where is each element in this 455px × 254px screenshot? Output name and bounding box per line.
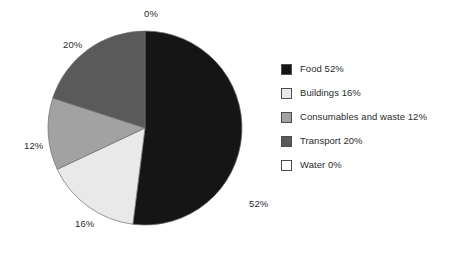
pie-chart: 0%20%12%16%52% Food 52%Buildings 16%Cons… bbox=[0, 0, 455, 254]
pie-slice-food bbox=[133, 31, 242, 225]
legend-swatch-food bbox=[281, 64, 292, 75]
chart-legend: Food 52%Buildings 16%Consumables and was… bbox=[281, 57, 455, 177]
legend-item[interactable]: Water 0% bbox=[281, 153, 455, 177]
legend-item-label: Transport 20% bbox=[300, 136, 363, 146]
slice-percent-label: 16% bbox=[75, 219, 94, 229]
pie-figure: 0%20%12%16%52% bbox=[0, 0, 280, 254]
legend-swatch-buildings bbox=[281, 88, 292, 99]
legend-item-label: Food 52% bbox=[300, 64, 344, 74]
slice-percent-label: 20% bbox=[63, 40, 82, 50]
legend-item[interactable]: Food 52% bbox=[281, 57, 455, 81]
legend-item-label: Buildings 16% bbox=[300, 88, 361, 98]
legend-swatch-water bbox=[281, 160, 292, 171]
legend-item[interactable]: Transport 20% bbox=[281, 129, 455, 153]
legend-item[interactable]: Consumables and waste 12% bbox=[281, 105, 455, 129]
slice-percent-label: 0% bbox=[144, 9, 158, 19]
legend-item-label: Water 0% bbox=[300, 160, 342, 170]
pie-slices bbox=[0, 0, 280, 254]
legend-swatch-consumables bbox=[281, 112, 292, 123]
legend-swatch-transport bbox=[281, 136, 292, 147]
legend-item-label: Consumables and waste 12% bbox=[300, 112, 427, 122]
slice-percent-label: 12% bbox=[24, 141, 43, 151]
legend-item[interactable]: Buildings 16% bbox=[281, 81, 455, 105]
slice-percent-label: 52% bbox=[249, 199, 268, 209]
